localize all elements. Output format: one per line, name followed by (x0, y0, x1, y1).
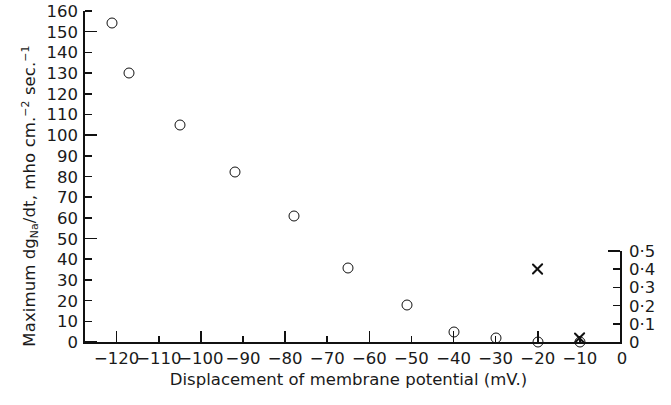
x-tick-label: −90 (226, 349, 261, 368)
secondary-y-tick-label: 0·4 (629, 260, 655, 279)
data-point-circle (288, 210, 299, 221)
secondary-y-tick (608, 250, 620, 252)
y-tick (85, 114, 92, 116)
x-axis-label-text: Displacement of membrane potential (mV.) (170, 370, 527, 389)
x-tick-label: −60 (352, 349, 387, 368)
secondary-y-tick (613, 268, 620, 270)
x-tick-label: 0 (617, 349, 628, 368)
y-tick (85, 52, 92, 54)
secondary-y-tick-label: 0·2 (629, 296, 655, 315)
x-tick-label: −120 (94, 349, 139, 368)
y-tick-label: 60 (57, 208, 78, 227)
data-point-circle (124, 68, 135, 79)
secondary-y-tick (613, 287, 620, 289)
x-tick (369, 331, 371, 342)
y-axis-label-text: Maximum dgNa/dt, mho cm.−2 sec.−1 (19, 45, 41, 346)
y-tick-label: 20 (57, 291, 78, 310)
x-tick (116, 331, 118, 342)
y-tick (85, 279, 92, 281)
y-axis-label-sup-minus1: −1 (19, 45, 32, 61)
secondary-y-tick-label: 0·1 (629, 314, 655, 333)
data-point-circle (402, 299, 413, 310)
y-tick (85, 238, 97, 240)
y-tick-label: 160 (47, 2, 79, 21)
x-tick (200, 331, 202, 342)
x-tick-label: −100 (178, 349, 223, 368)
y-tick (85, 321, 92, 323)
plot-area (83, 11, 622, 344)
data-point-circle (343, 262, 354, 273)
y-tick (85, 31, 97, 33)
secondary-y-tick-label: 0·3 (629, 278, 655, 297)
y-tick-label: 50 (57, 229, 78, 248)
y-tick-label: 150 (47, 22, 79, 41)
y-tick-label: 110 (47, 105, 79, 124)
y-tick (85, 217, 92, 219)
x-tick-label: −40 (436, 349, 471, 368)
y-tick (85, 196, 92, 198)
y-tick (85, 155, 92, 157)
y-tick-label: 40 (57, 250, 78, 269)
data-point-circle (490, 332, 501, 343)
y-tick-label: 120 (47, 84, 79, 103)
data-point-circle (532, 337, 543, 348)
y-tick-label: 10 (57, 312, 78, 331)
y-tick (85, 176, 92, 178)
x-tick-label: −30 (478, 349, 513, 368)
data-point-circle (229, 167, 240, 178)
figure-scatter-plot: Maximum dgNa/dt, mho cm.−2 sec.−1 010203… (0, 0, 671, 405)
x-tick-label: −80 (268, 349, 303, 368)
y-axis-line (83, 11, 85, 344)
y-axis-label: Maximum dgNa/dt, mho cm.−2 sec.−1 (17, 26, 43, 366)
y-tick (85, 134, 97, 136)
y-axis-label-pre: Maximum dg (20, 238, 39, 347)
y-axis-label-mid: /dt, mho cm. (20, 117, 39, 223)
data-point-circle (107, 18, 118, 29)
y-tick-label: 100 (47, 126, 79, 145)
data-point-cross (572, 331, 587, 346)
y-tick-label: 140 (47, 43, 79, 62)
data-point-circle (448, 326, 459, 337)
data-point-cross (530, 262, 545, 277)
x-tick-label: −20 (520, 349, 555, 368)
data-point-circle (174, 119, 185, 130)
secondary-y-tick (613, 323, 620, 325)
y-tick (85, 258, 92, 260)
secondary-y-axis-line (620, 251, 622, 344)
y-axis-label-sub-na: Na (28, 223, 41, 238)
x-tick (284, 331, 286, 342)
x-tick (326, 336, 328, 342)
secondary-y-tick (613, 305, 620, 307)
x-axis-label: Displacement of membrane potential (mV.) (0, 370, 671, 389)
y-axis-label-sup-minus2: −2 (19, 100, 32, 116)
y-tick (85, 93, 92, 95)
y-tick-label: 70 (57, 188, 78, 207)
y-tick (85, 72, 92, 74)
y-axis-label-mid2: sec. (20, 62, 39, 101)
y-tick-label: 130 (47, 64, 79, 83)
y-tick-label: 90 (57, 146, 78, 165)
x-tick-label: −50 (394, 349, 429, 368)
x-tick-label: −110 (136, 349, 181, 368)
x-tick (242, 336, 244, 342)
y-tick-label: 30 (57, 270, 78, 289)
y-tick-label: 0 (68, 333, 79, 352)
y-tick (85, 10, 92, 12)
y-tick (85, 341, 97, 343)
secondary-y-tick-label: 0·5 (629, 242, 655, 261)
secondary-y-tick-label: 0 (629, 333, 640, 352)
y-tick (85, 300, 92, 302)
x-tick (158, 336, 160, 342)
y-tick-label: 80 (57, 167, 78, 186)
x-tick-label: −10 (562, 349, 597, 368)
x-tick (411, 336, 413, 342)
x-tick-label: −70 (310, 349, 345, 368)
